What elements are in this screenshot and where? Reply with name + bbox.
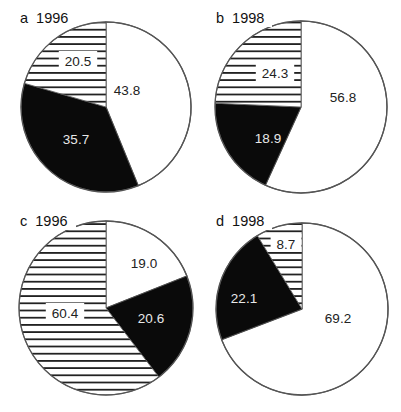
slice-value-label: 18.9: [255, 131, 281, 146]
slice-value-label: 24.3: [262, 66, 288, 81]
pie-panel-a: 43.835.720.5a 1996: [18, 10, 191, 192]
slice-value-label: 43.8: [114, 83, 140, 98]
pie-charts-svg: 43.835.720.5a 199656.818.924.3b 199819.0…: [0, 0, 401, 412]
slice-value-label: 20.6: [138, 311, 164, 326]
slice-value-label: 56.8: [330, 90, 356, 105]
pie-panel-d: 69.222.18.7d 1998: [214, 213, 388, 395]
slice-value-label: 8.7: [277, 237, 296, 252]
slice-value-label: 69.2: [325, 311, 351, 326]
panels-root: 43.835.720.5a 199656.818.924.3b 199819.0…: [18, 10, 388, 395]
pie-chart-figure: 43.835.720.5a 199656.818.924.3b 199819.0…: [0, 0, 401, 412]
slice-value-label: 19.0: [131, 256, 157, 271]
panel-title: c 1996: [20, 213, 68, 229]
slice-value-label: 22.1: [231, 291, 257, 306]
pie-panel-b: 56.818.924.3b 1998: [214, 10, 387, 193]
panel-title: a 1996: [20, 10, 68, 26]
panel-title: b 1998: [216, 10, 264, 26]
panel-title: d 1998: [216, 213, 264, 229]
slice-value-label: 20.5: [65, 54, 91, 69]
slice-value-label: 35.7: [63, 132, 89, 147]
pie-panel-c: 19.020.660.4c 1996: [18, 213, 193, 395]
slice-value-label: 60.4: [52, 306, 79, 321]
